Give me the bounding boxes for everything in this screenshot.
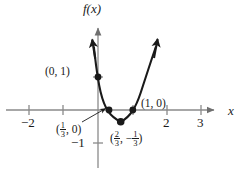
point-y-intercept — [95, 74, 102, 81]
fraction-denominator: 3 — [60, 129, 66, 139]
curve-arrow-left — [92, 40, 95, 59]
fraction-two-thirds: 23 — [114, 130, 120, 149]
fraction-one-third-negative: 13 — [132, 130, 138, 149]
paren-close: ) — [139, 132, 143, 144]
point-label-one-third: (13, 0) — [56, 121, 81, 140]
point-label-vertex: (23, −13) — [110, 130, 142, 149]
x-tick-label-minus2: −2 — [21, 116, 35, 129]
y-axis-label: f(x) — [83, 2, 101, 15]
fraction-numerator: 1 — [60, 121, 66, 130]
fraction-denominator: 3 — [132, 138, 138, 148]
point-x-intercept-one-third — [106, 107, 113, 114]
point-label-y-intercept: (0, 1) — [45, 66, 70, 78]
graph-canvas — [0, 0, 247, 179]
label-suffix: , 0) — [66, 123, 81, 135]
fraction-numerator: 1 — [132, 130, 138, 139]
x-tick-label-2: 2 — [163, 116, 170, 129]
fraction-denominator: 3 — [114, 138, 120, 148]
fraction-one-third: 13 — [60, 121, 66, 140]
x-tick-label-3: 3 — [197, 116, 204, 129]
point-vertex — [117, 118, 125, 126]
label-separator: , − — [120, 132, 132, 144]
x-axis-label: x — [228, 104, 234, 117]
point-label-x-intercept-one: (1, 0) — [141, 98, 166, 110]
point-x-intercept-one — [129, 107, 136, 114]
fraction-numerator: 2 — [114, 130, 120, 139]
graph-figure: f(x) x −2 2 3 −1 (0, 1) (13, 0) (1, 0) (… — [0, 0, 247, 179]
